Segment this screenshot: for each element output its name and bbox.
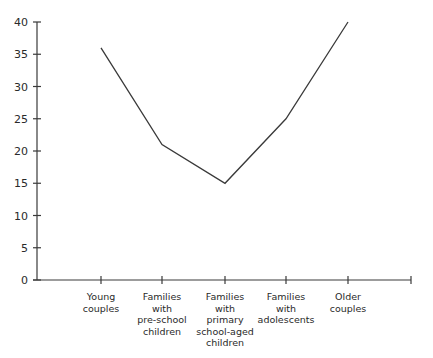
y-axis: 0510152025303540 — [14, 16, 41, 287]
x-tick-label: Familieswithprimaryschool-agedchildren — [196, 291, 254, 348]
line-chart: 0510152025303540 YoungcouplesFamilieswit… — [0, 0, 433, 358]
y-tick-label: 5 — [21, 242, 28, 255]
y-tick-label: 0 — [21, 274, 28, 287]
y-tick-label: 30 — [14, 81, 28, 94]
y-tick-label: 10 — [14, 210, 28, 223]
y-tick-label: 20 — [14, 145, 28, 158]
data-line — [101, 22, 348, 183]
x-tick-label: Youngcouples — [83, 291, 120, 314]
y-tick-label: 25 — [14, 113, 28, 126]
x-tick-label: Oldercouples — [330, 291, 367, 314]
y-tick-label: 40 — [14, 16, 28, 29]
x-axis: YoungcouplesFamilieswithpre-schoolchildr… — [33, 276, 411, 348]
y-tick-label: 15 — [14, 177, 28, 190]
x-tick-label: Familieswithpre-schoolchildren — [137, 291, 186, 337]
y-tick-label: 35 — [14, 48, 28, 61]
x-tick-label: Familieswithadolescents — [258, 291, 315, 325]
